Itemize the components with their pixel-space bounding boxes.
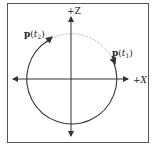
orbit-solid-arc	[27, 40, 117, 124]
p2-arrow-icon	[46, 37, 52, 42]
p1-label: p(t1)	[112, 48, 133, 59]
frame-border	[8, 4, 149, 143]
diagram-canvas: +Z +X p(t2) p(t1)	[0, 0, 157, 148]
z-axis-label: +Z	[67, 6, 81, 16]
p2-label: p(t2)	[24, 29, 45, 40]
x-axis-label: +X	[133, 75, 148, 85]
orbit-dashed-arc	[49, 34, 114, 62]
